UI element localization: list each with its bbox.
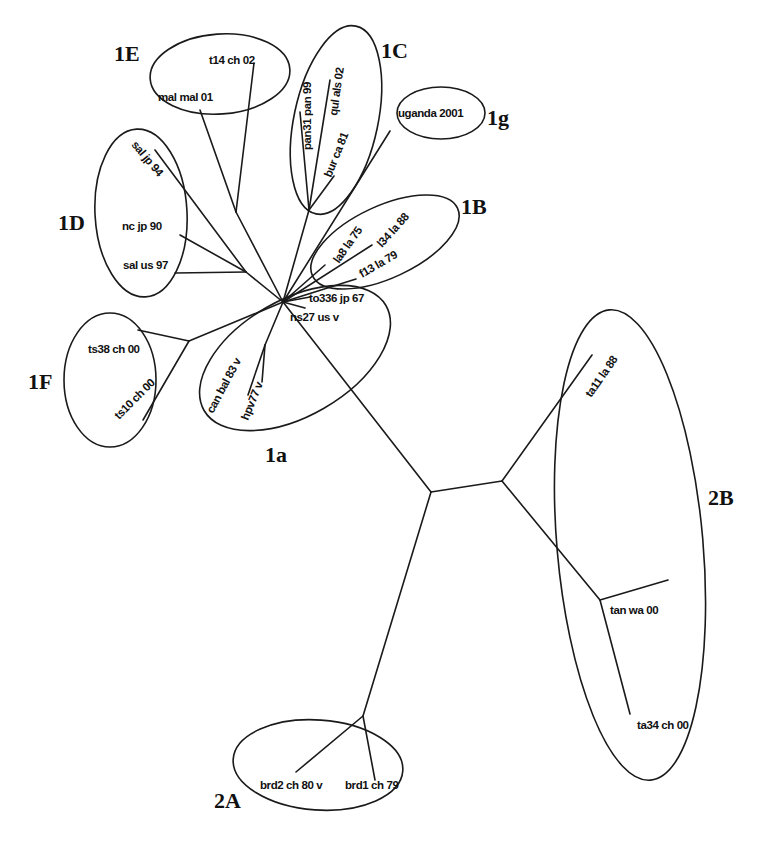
clade-label-1B: 1B	[461, 194, 487, 219]
branch-ts38	[138, 330, 189, 341]
clade-ellipses	[64, 17, 723, 815]
clade-label-1g: 1g	[487, 105, 509, 130]
branch-t14	[236, 63, 254, 212]
branch-mal	[200, 110, 236, 212]
leaf-label-ts38: ts38 ch 00	[88, 343, 140, 355]
phylogenetic-tree: t14 ch 02 mal mal 01 pan31 pan 99 qul al…	[0, 0, 763, 841]
branch-nodeB-to-tan	[502, 481, 600, 600]
branch-ncjp	[180, 235, 246, 272]
clade-label-1D: 1D	[58, 210, 85, 235]
branch-tanwa	[600, 580, 668, 600]
branch-hub-to-1D	[246, 272, 283, 302]
clade-1E-ellipse	[147, 29, 292, 119]
branch-brd2	[296, 716, 363, 772]
leaf-label-t14: t14 ch 02	[209, 54, 255, 66]
branch-nodeA-to-2A	[363, 492, 431, 716]
clade-label-1E: 1E	[114, 41, 140, 66]
branch-saljp	[155, 150, 246, 272]
clade-1F-ellipse	[64, 313, 156, 447]
branch-salus	[175, 272, 246, 273]
clade-2A-ellipse	[230, 714, 406, 816]
leaf-label-brd2: brd2 ch 80 v	[260, 779, 323, 791]
leaf-label-uganda: uganda 2001	[398, 107, 464, 119]
clade-1C-ellipse	[275, 17, 397, 222]
leaf-label-ta34: ta34 ch 00	[637, 719, 689, 731]
clade-label-1a: 1a	[265, 442, 287, 467]
leaf-label-bur: bur ca 81	[322, 130, 351, 179]
branch-brd1	[363, 716, 375, 780]
leaf-label-tanwa: tan wa 00	[610, 604, 658, 616]
clade-label-1F: 1F	[28, 369, 52, 394]
branch-bur	[309, 176, 334, 210]
branch-ta11	[502, 355, 592, 481]
leaf-label-mal: mal mal 01	[158, 91, 214, 103]
leaf-label-ns27: ns27 us v	[290, 311, 340, 323]
leaf-label-ncjp: nc jp 90	[122, 220, 162, 232]
leaf-label-hpv77: hpv77 v	[239, 379, 265, 422]
branch-nodeA-to-nodeB	[431, 481, 502, 492]
leaf-label-pan31: pan31 pan 99	[301, 82, 313, 150]
leaf-label-l34: l34 la 88	[375, 210, 412, 249]
branch-hub-to-1E	[236, 212, 283, 302]
clade-label-2B: 2B	[708, 485, 734, 510]
clade-1a-ellipse	[175, 255, 415, 460]
clade-label-2A: 2A	[214, 788, 241, 813]
leaf-label-salus: sal us 97	[123, 259, 168, 271]
branches	[138, 63, 668, 780]
leaf-label-f13: f13 la 79	[357, 248, 399, 279]
leaf-label-qul: qul als 02	[327, 67, 346, 117]
branch-ta34	[600, 600, 630, 714]
clade-label-1C: 1C	[381, 38, 408, 63]
leaf-label-to336: to336 jp 67	[309, 292, 364, 304]
leaf-label-canbal: can bal 83 v	[204, 355, 243, 415]
clade-labels: 1E 1C 1g 1D 1B 1a 1F 2B 2A	[28, 38, 734, 813]
leaf-label-brd1: brd1 ch 79	[345, 779, 399, 791]
branch-hub-to-nodeA	[283, 302, 431, 492]
leaf-labels: t14 ch 02 mal mal 01 pan31 pan 99 qul al…	[88, 54, 689, 791]
